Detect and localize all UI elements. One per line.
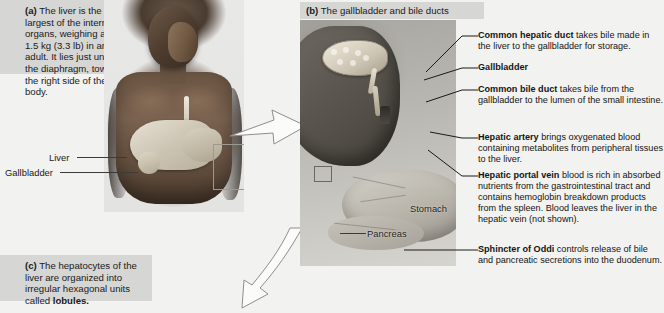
stomach-label: Stomach	[410, 203, 447, 214]
gallbladder-overlay-illustration	[138, 152, 160, 174]
face	[168, 22, 198, 62]
caption-b-title: The gallbladder and bile ducts	[321, 5, 449, 16]
annotation-hepatic-portal-vein: Hepatic portal vein blood is rich in abs…	[478, 170, 664, 225]
caption-c-bold-term: lobules.	[53, 295, 89, 306]
liver-label: Liver	[49, 152, 69, 163]
caption-panel-c: (c) The hepatocytes of the liver are org…	[0, 255, 152, 301]
annotation-term: Common hepatic duct	[478, 30, 574, 40]
annotation-sphincter-of-oddi: Sphincter of Oddi controls release of bi…	[478, 244, 664, 266]
detail-region-box	[213, 144, 244, 190]
annotation-term: Hepatic artery	[478, 132, 539, 142]
sphincter-detail-box	[314, 166, 332, 182]
annotation-common-bile-duct: Common bile duct takes bile from the gal…	[478, 84, 664, 106]
caption-panel-b: (b) The gallbladder and bile ducts	[300, 2, 484, 19]
caption-b-tag: (b)	[306, 5, 318, 16]
torso-photograph	[104, 0, 244, 212]
annotation-gallbladder: Gallbladder	[478, 62, 664, 73]
annotation-term: Gallbladder	[478, 62, 528, 72]
annotation-term: Sphincter of Oddi	[478, 244, 554, 254]
pancreas-label: Pancreas	[367, 228, 407, 239]
annotation-term: Common bile duct	[478, 84, 557, 94]
annotation-hepatic-artery: Hepatic artery brings oxygenated blood c…	[478, 132, 664, 165]
pancreas-leader-line	[340, 233, 366, 234]
gallbladder-leader-line	[60, 172, 138, 173]
head	[148, 6, 198, 68]
caption-a-tag: (a)	[25, 5, 37, 16]
gallbladder-label: Gallbladder	[5, 167, 53, 178]
annotation-term: Hepatic portal vein	[478, 170, 559, 180]
liver-leader-line	[77, 157, 127, 158]
annotation-common-hepatic-duct: Common hepatic duct takes bile made in t…	[478, 30, 664, 52]
hepatic-artery-illustration	[380, 106, 390, 124]
gallbladder-illustration	[322, 40, 388, 76]
caption-c-tag: (c)	[25, 260, 37, 271]
figure-root: (a) The liver is the largest of the inte…	[0, 0, 664, 313]
